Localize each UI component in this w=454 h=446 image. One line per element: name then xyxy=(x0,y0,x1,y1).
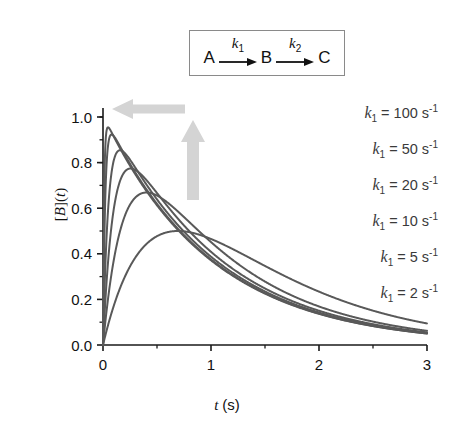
kinetics-figure: A k1 B k2 C xyxy=(0,0,454,446)
trend-annotation-arrows xyxy=(112,99,205,200)
x-tick-label: 3 xyxy=(423,356,431,373)
legend-entry: k1 = 50 s-1 xyxy=(296,140,438,160)
x-tick-label: 0 xyxy=(99,356,107,373)
legend-entry: k1 = 2 s-1 xyxy=(296,284,438,304)
y-tick-label: 1.0 xyxy=(71,109,92,126)
y-tick-label: 0.8 xyxy=(71,154,92,171)
x-axis-label: t (s) xyxy=(0,396,454,414)
legend-entry: k1 = 100 s-1 xyxy=(296,104,438,124)
legend-entry: k1 = 10 s-1 xyxy=(296,212,438,232)
left-block-arrow-icon xyxy=(112,99,185,119)
y-axis-label: [B](t) xyxy=(52,165,69,245)
y-tick-label: 0.6 xyxy=(71,200,92,217)
y-tick-label: 0.0 xyxy=(71,337,92,354)
legend: k1 = 100 s-1k1 = 50 s-1k1 = 20 s-1k1 = 1… xyxy=(296,104,438,320)
legend-entry: k1 = 5 s-1 xyxy=(296,248,438,268)
y-tick-label: 0.4 xyxy=(71,245,92,262)
x-tick-label: 1 xyxy=(207,356,215,373)
y-tick-label: 0.2 xyxy=(71,291,92,308)
up-block-arrow-icon xyxy=(181,120,205,200)
x-tick-label: 2 xyxy=(315,356,323,373)
legend-entry: k1 = 20 s-1 xyxy=(296,176,438,196)
